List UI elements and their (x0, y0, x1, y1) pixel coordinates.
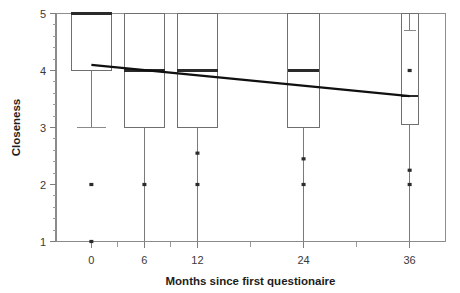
plot-frame (56, 14, 445, 242)
y-tick-label: 4 (40, 65, 46, 77)
outlier-marker (408, 183, 412, 186)
outlier-marker (89, 240, 93, 243)
fitted-trend-line (91, 65, 409, 96)
chart-canvas: 12345 06122436 Months since first questi… (0, 0, 460, 293)
outlier-marker (142, 183, 146, 186)
boxplot-12 (177, 14, 218, 242)
outlier-marker (89, 183, 93, 186)
trend-line (91, 65, 409, 96)
outlier-marker (302, 157, 306, 160)
boxplot-6 (124, 14, 165, 242)
box-iqr (71, 14, 112, 71)
box-series (71, 14, 418, 244)
y-tick-label: 3 (40, 122, 46, 134)
boxplot-24 (288, 14, 320, 242)
y-tick-label: 2 (40, 179, 46, 191)
outlier-marker (195, 152, 199, 155)
outlier-marker (408, 69, 412, 72)
x-tick-label: 24 (297, 254, 309, 266)
plot-border (56, 14, 445, 242)
y-tick-label: 1 (40, 236, 46, 248)
outlier-marker (408, 169, 412, 172)
x-tick-label: 6 (141, 254, 147, 266)
x-tick-label: 12 (191, 254, 203, 266)
outlier-marker (302, 183, 306, 186)
axis-labels: Months since first questionaireCloseness (10, 99, 335, 287)
outlier-marker (195, 183, 199, 186)
y-axis-title: Closeness (10, 99, 22, 157)
boxplot-36 (401, 14, 418, 242)
y-axis: 12345 (40, 8, 56, 248)
boxplot-figure: 12345 06122436 Months since first questi… (0, 0, 460, 293)
x-tick-label: 0 (88, 254, 94, 266)
x-axis: 06122436 (56, 242, 445, 266)
y-tick-label: 5 (40, 8, 46, 20)
boxplot-0 (71, 14, 112, 244)
x-axis-title: Months since first questionaire (166, 275, 336, 287)
x-tick-label: 36 (404, 254, 416, 266)
